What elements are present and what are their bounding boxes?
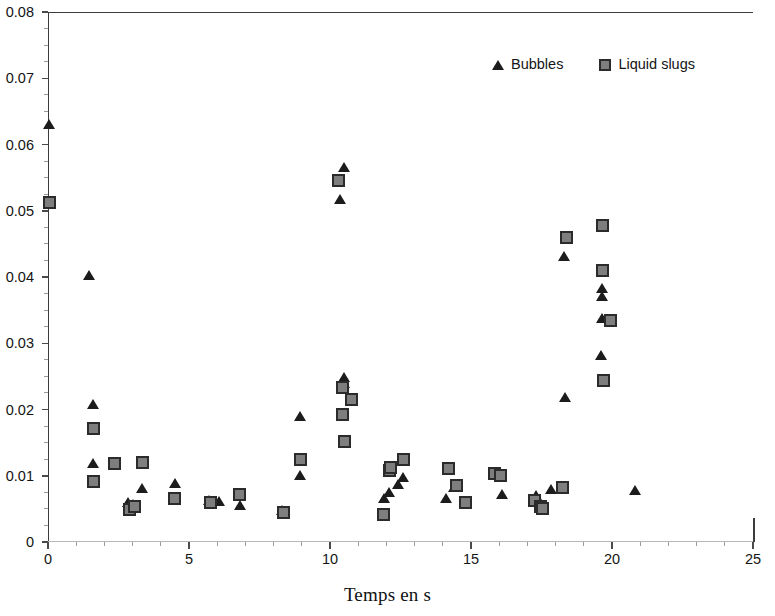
x-tick-minor xyxy=(527,542,528,546)
data-point-bubbles xyxy=(440,493,452,503)
y-tick-minor xyxy=(44,61,48,62)
data-point-liquid-slugs xyxy=(336,408,349,421)
y-tick-minor xyxy=(44,28,48,29)
x-tick-minor xyxy=(696,542,697,546)
x-tick-label: 25 xyxy=(728,551,775,567)
data-point-bubbles xyxy=(87,399,99,409)
y-tick-minor xyxy=(44,508,48,509)
x-tick-major xyxy=(470,542,472,549)
chart-legend: Bubbles Liquid slugs xyxy=(492,56,695,72)
legend-label-liquid-slugs: Liquid slugs xyxy=(618,56,695,72)
data-point-liquid-slugs xyxy=(560,231,573,244)
x-tick-minor xyxy=(245,542,246,546)
data-point-liquid-slugs xyxy=(442,462,455,475)
x-tick-minor xyxy=(104,542,105,546)
y-tick-minor xyxy=(44,227,48,228)
y-tick-minor xyxy=(44,45,48,46)
y-tick-minor xyxy=(44,392,48,393)
data-point-bubbles xyxy=(596,291,608,301)
data-point-liquid-slugs xyxy=(168,492,181,505)
data-point-liquid-slugs xyxy=(128,500,141,513)
x-tick-major xyxy=(329,542,331,549)
data-point-liquid-slugs xyxy=(108,457,121,470)
x-tick-major xyxy=(188,542,190,549)
y-tick-label: 0.02 xyxy=(0,403,34,417)
x-tick-minor xyxy=(724,542,725,546)
x-tick-label: 0 xyxy=(23,551,73,567)
legend-label-bubbles: Bubbles xyxy=(511,56,563,72)
y-tick-major xyxy=(42,78,48,80)
x-tick-minor xyxy=(76,542,77,546)
y-tick-minor xyxy=(44,293,48,294)
data-point-liquid-slugs xyxy=(332,174,345,187)
y-tick-minor xyxy=(44,243,48,244)
x-tick-minor xyxy=(640,542,641,546)
data-point-bubbles xyxy=(629,485,641,495)
data-point-bubbles xyxy=(558,251,570,261)
y-tick-major xyxy=(42,343,48,345)
data-point-liquid-slugs xyxy=(43,196,56,209)
scatter-chart: 00.010.020.030.040.050.060.070.08 051015… xyxy=(0,0,775,616)
data-point-bubbles xyxy=(595,350,607,360)
data-point-bubbles xyxy=(338,162,350,172)
data-point-liquid-slugs xyxy=(294,453,307,466)
data-point-bubbles xyxy=(397,472,409,482)
data-point-liquid-slugs xyxy=(136,456,149,469)
y-tick-minor xyxy=(44,376,48,377)
x-tick-minor xyxy=(132,542,133,546)
y-tick-major xyxy=(42,210,48,212)
y-tick-minor xyxy=(44,161,48,162)
data-point-bubbles xyxy=(334,194,346,204)
data-point-liquid-slugs xyxy=(604,314,617,327)
data-point-bubbles xyxy=(87,458,99,468)
data-point-bubbles xyxy=(294,411,306,421)
x-tick-label: 20 xyxy=(587,551,637,567)
x-tick-minor xyxy=(668,542,669,546)
y-tick-major xyxy=(42,11,48,13)
x-axis-line xyxy=(48,541,754,542)
data-point-liquid-slugs xyxy=(556,481,569,494)
x-tick-minor xyxy=(555,542,556,546)
triangle-marker-icon xyxy=(492,60,504,70)
y-tick-minor xyxy=(44,459,48,460)
data-point-liquid-slugs xyxy=(204,496,217,509)
y-tick-minor xyxy=(44,194,48,195)
legend-entry-bubbles: Bubbles xyxy=(492,56,563,72)
x-axis-title: Temps en s xyxy=(0,584,775,606)
plot-right-edge xyxy=(753,518,755,542)
data-point-liquid-slugs xyxy=(233,488,246,501)
y-tick-minor xyxy=(44,326,48,327)
data-point-liquid-slugs xyxy=(596,264,609,277)
x-tick-minor xyxy=(499,542,500,546)
y-tick-minor xyxy=(44,359,48,360)
x-tick-label: 10 xyxy=(305,551,355,567)
y-tick-minor xyxy=(44,310,48,311)
x-tick-minor xyxy=(273,542,274,546)
data-point-bubbles xyxy=(136,483,148,493)
y-tick-label: 0.08 xyxy=(0,5,34,19)
x-tick-label: 5 xyxy=(164,551,214,567)
data-point-liquid-slugs xyxy=(377,508,390,521)
data-point-liquid-slugs xyxy=(450,479,463,492)
data-point-liquid-slugs xyxy=(338,435,351,448)
y-tick-label: 0.04 xyxy=(0,270,34,284)
y-tick-minor xyxy=(44,525,48,526)
x-tick-major xyxy=(752,542,754,549)
data-point-liquid-slugs xyxy=(597,374,610,387)
data-point-liquid-slugs xyxy=(345,393,358,406)
y-tick-label: 0.01 xyxy=(0,469,34,483)
data-point-liquid-slugs xyxy=(87,475,100,488)
data-point-bubbles xyxy=(83,270,95,280)
data-point-liquid-slugs xyxy=(536,502,549,515)
data-point-liquid-slugs xyxy=(596,219,609,232)
data-point-liquid-slugs xyxy=(459,496,472,509)
data-point-bubbles xyxy=(43,119,55,129)
data-point-bubbles xyxy=(294,470,306,480)
x-tick-minor xyxy=(414,542,415,546)
x-tick-minor xyxy=(358,542,359,546)
x-tick-major xyxy=(47,542,49,549)
data-point-liquid-slugs xyxy=(397,453,410,466)
y-tick-label: 0 xyxy=(0,535,34,549)
y-tick-major xyxy=(42,409,48,411)
data-point-bubbles xyxy=(559,392,571,402)
